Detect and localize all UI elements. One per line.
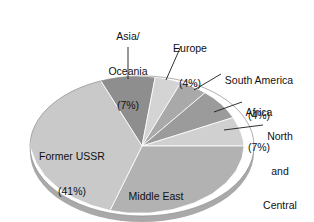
slice-label-former-ussr-pct: (41%)	[24, 186, 120, 198]
slice-label-north-central-america-line3: Central	[248, 200, 312, 212]
slice-label-middle-east: Middle East (31%)	[112, 168, 200, 222]
slice-label-north-central-america-line1: North	[248, 131, 312, 143]
pie-chart: Asia/ Oceania (7%) Europe (4%) South Ame…	[0, 0, 314, 222]
slice-label-asia-oceania: Asia/ Oceania (7%)	[98, 8, 158, 135]
slice-label-asia-oceania-line2: Oceania	[98, 66, 158, 78]
slice-label-asia-oceania-line1: Asia/	[98, 31, 158, 43]
slice-label-north-central-america: North and Central America (6%)	[248, 108, 312, 222]
slice-label-former-ussr-line1: Former USSR	[24, 151, 120, 163]
slice-label-middle-east-line1: Middle East	[112, 191, 200, 203]
slice-label-former-ussr: Former USSR (41%)	[24, 128, 120, 220]
slice-label-north-central-america-line2: and	[248, 166, 312, 178]
slice-label-asia-oceania-pct: (7%)	[98, 100, 158, 112]
